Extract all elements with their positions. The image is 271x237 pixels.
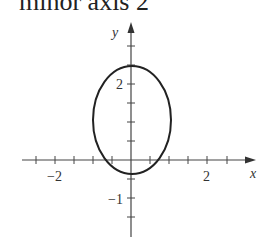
y-axis-label: y: [110, 25, 119, 40]
y-tick-label-neg1: −1: [108, 192, 123, 207]
x-tick-label-2: 2: [203, 169, 210, 184]
x-tick-label-neg2: −2: [47, 169, 62, 184]
x-axis-arrow-icon: [245, 157, 256, 164]
x-axis-label: x: [249, 166, 257, 181]
y-tick-label-2: 2: [116, 77, 123, 92]
y-axis-arrow-icon: [128, 22, 135, 33]
ellipse-plot: y x −2 2 2 −1: [0, 0, 271, 237]
ellipse-curve: [93, 66, 171, 174]
